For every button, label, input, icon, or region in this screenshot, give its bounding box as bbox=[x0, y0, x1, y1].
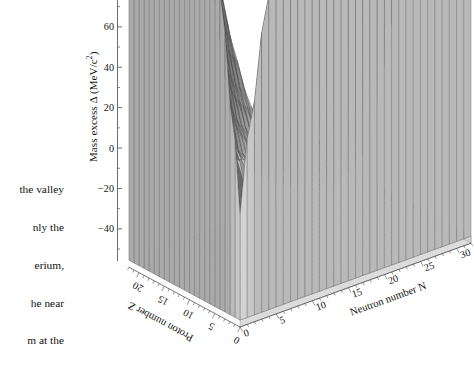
z-tick-label: 0 bbox=[109, 143, 114, 154]
z-tick-label: 60 bbox=[104, 21, 114, 32]
y-tick-label: 25 bbox=[422, 260, 435, 274]
x-tick-label: 15 bbox=[156, 293, 170, 308]
caption-line: m at the bbox=[0, 334, 64, 347]
z-tick-label: 40 bbox=[104, 62, 114, 73]
figure-valley-of-stability: the valley nly the erium, he near m at t… bbox=[0, 0, 474, 371]
y-tick-label: 0 bbox=[242, 327, 251, 339]
y-tick-label: 10 bbox=[314, 299, 327, 313]
y-tick-label: 20 bbox=[386, 273, 399, 287]
surface-plot: Mass excess Δ (MeV/c2) 6040200−20−40 051… bbox=[58, 0, 474, 371]
surface-plot-canvas: 6040200−20−40 05101520Proton number Z 05… bbox=[58, 0, 474, 371]
y-tick-label: 5 bbox=[278, 314, 287, 326]
z-axis: 6040200−20−40 bbox=[98, 0, 122, 261]
caption-line: he near bbox=[0, 297, 64, 310]
z-tick-label: −40 bbox=[98, 223, 114, 234]
x-tick-label: 20 bbox=[131, 280, 145, 295]
x-tick-label: 0 bbox=[232, 334, 242, 346]
x-tick-label: 10 bbox=[181, 307, 195, 322]
caption-line: the valley bbox=[0, 183, 64, 196]
y-tick-label: 15 bbox=[350, 286, 363, 300]
caption-line: nly the bbox=[0, 221, 64, 234]
y-tick-label: 30 bbox=[459, 246, 472, 260]
x-tick-label: 5 bbox=[206, 321, 216, 333]
mass-excess-surface bbox=[129, 0, 471, 320]
z-tick-label: −20 bbox=[98, 183, 114, 194]
z-tick-label: 20 bbox=[104, 102, 114, 113]
y-axis-title: Neutron number N bbox=[349, 280, 428, 318]
caption-line: erium, bbox=[0, 259, 64, 272]
figure-caption: the valley nly the erium, he near m at t… bbox=[0, 158, 64, 371]
